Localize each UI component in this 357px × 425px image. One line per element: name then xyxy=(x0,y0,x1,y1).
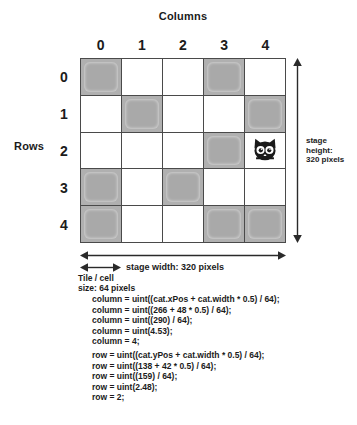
rows-axis-title: Rows xyxy=(14,140,44,152)
grid-cell-r0-c4 xyxy=(245,59,286,96)
row-header-0: 0 xyxy=(56,58,72,95)
column-header-1: 1 xyxy=(121,37,162,53)
grid-cell-r4-c2 xyxy=(163,206,204,243)
column-header-0: 0 xyxy=(80,37,121,53)
grid-cell-r1-c1 xyxy=(122,96,163,133)
row-header-4: 4 xyxy=(56,206,72,243)
tile-size-label: Tile / cell size: 64 pixels xyxy=(78,273,135,293)
row-calculation-code: row = uint((cat.yPos + cat.width * 0.5) … xyxy=(92,350,264,403)
grid-cell-r1-c4 xyxy=(245,96,286,133)
grid-cell-r0-c0 xyxy=(81,59,122,96)
column-calculation-code: column = uint((cat.xPos + cat.width * 0.… xyxy=(92,294,280,347)
column-header-4: 4 xyxy=(245,37,286,53)
columns-axis-title: Columns xyxy=(80,10,286,22)
row-header-3: 3 xyxy=(56,169,72,206)
grid-cell-r2-c1 xyxy=(122,133,163,170)
grid-cell-r1-c0 xyxy=(81,96,122,133)
grid-cell-r4-c3 xyxy=(204,206,245,243)
column-header-3: 3 xyxy=(204,37,245,53)
grid-cell-r2-c4 xyxy=(245,133,286,170)
grid-cell-r3-c2 xyxy=(163,169,204,206)
stage-width-arrow xyxy=(80,250,286,261)
grid-cell-r4-c1 xyxy=(122,206,163,243)
grid-cell-r2-c3 xyxy=(204,133,245,170)
grid-cell-r0-c3 xyxy=(204,59,245,96)
cat-sprite-icon xyxy=(245,133,285,169)
tile-size-arrow xyxy=(80,262,121,273)
row-header-column: 0 1 2 3 4 xyxy=(56,58,72,243)
grid-cell-r2-c0 xyxy=(81,133,122,170)
grid-cell-r4-c4 xyxy=(245,206,286,243)
stage-width-label: stage width: 320 pixels xyxy=(126,262,224,272)
grid-cell-r2-c2 xyxy=(163,133,204,170)
grid-cell-r3-c4 xyxy=(245,169,286,206)
grid-cell-r3-c0 xyxy=(81,169,122,206)
grid-cell-r4-c0 xyxy=(81,206,122,243)
column-header-2: 2 xyxy=(162,37,203,53)
row-header-2: 2 xyxy=(56,132,72,169)
tile-grid xyxy=(80,58,286,243)
grid-cell-r3-c1 xyxy=(122,169,163,206)
grid-cell-r1-c2 xyxy=(163,96,204,133)
column-header-row: 0 1 2 3 4 xyxy=(80,37,286,53)
grid-cell-r0-c1 xyxy=(122,59,163,96)
grid-cell-r3-c3 xyxy=(204,169,245,206)
grid-cell-r1-c3 xyxy=(204,96,245,133)
grid-cell-r0-c2 xyxy=(163,59,204,96)
stage-height-label: stage height: 320 pixels xyxy=(306,136,356,165)
stage-height-arrow xyxy=(292,58,303,243)
row-header-1: 1 xyxy=(56,95,72,132)
